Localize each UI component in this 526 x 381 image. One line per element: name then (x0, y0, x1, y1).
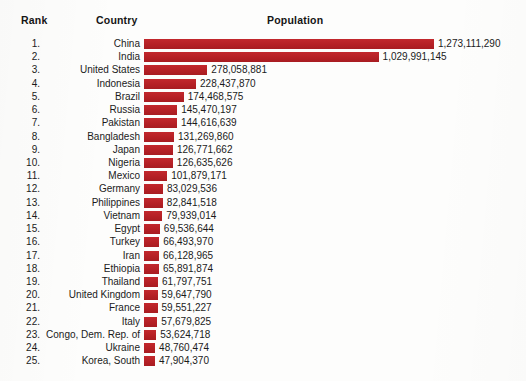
table-row: 21.France59,551,227 (0, 302, 526, 314)
row-rank: 9. (0, 144, 40, 156)
row-rank: 8. (0, 131, 40, 143)
row-rank: 19. (0, 276, 40, 288)
row-bar (144, 118, 177, 128)
row-value-label: 59,551,227 (162, 302, 212, 314)
row-country-label: Congo, Dem. Rep. of (42, 329, 140, 341)
row-country-label: Mexico (42, 170, 140, 182)
table-row: 1.China1,273,111,290 (0, 38, 526, 50)
row-country-label: Philippines (42, 197, 140, 209)
row-bar (144, 132, 174, 142)
table-row: 5.Brazil174,468,575 (0, 91, 526, 103)
row-bar (144, 198, 163, 208)
row-value-label: 66,128,965 (163, 250, 213, 262)
row-country-label: Nigeria (42, 157, 140, 169)
row-bar (144, 251, 159, 261)
row-value-label: 79,939,014 (166, 210, 216, 222)
row-value-label: 47,904,370 (159, 355, 209, 367)
row-rank: 17. (0, 250, 40, 262)
row-bar (144, 184, 163, 194)
row-value-label: 69,536,644 (164, 223, 214, 235)
row-value-label: 1,029,991,145 (383, 51, 447, 63)
table-row: 3.United States278,058,881 (0, 64, 526, 76)
row-country-label: Thailand (42, 276, 140, 288)
row-rank: 11. (0, 170, 40, 182)
row-bar (144, 303, 158, 313)
row-rank: 1. (0, 38, 40, 50)
row-country-label: Bangladesh (42, 131, 140, 143)
population-bar-chart: Rank Country Population 1.China1,273,111… (0, 0, 526, 381)
table-row: 18.Ethiopia65,891,874 (0, 263, 526, 275)
row-rank: 5. (0, 91, 40, 103)
row-bar (144, 290, 158, 300)
row-value-label: 83,029,536 (167, 183, 217, 195)
row-country-label: Vietnam (42, 210, 140, 222)
row-bar (144, 277, 158, 287)
row-bar (144, 79, 196, 89)
row-value-label: 65,891,874 (163, 263, 213, 275)
row-rank: 18. (0, 263, 40, 275)
table-row: 11.Mexico101,879,171 (0, 170, 526, 182)
row-rank: 6. (0, 104, 40, 116)
row-rank: 2. (0, 51, 40, 63)
row-country-label: Turkey (42, 236, 140, 248)
row-bar (144, 52, 379, 62)
row-value-label: 131,269,860 (178, 131, 234, 143)
row-value-label: 66,493,970 (163, 236, 213, 248)
row-country-label: Brazil (42, 91, 140, 103)
row-value-label: 61,797,751 (162, 276, 212, 288)
table-row: 12.Germany83,029,536 (0, 183, 526, 195)
row-rank: 12. (0, 183, 40, 195)
table-row: 10.Nigeria126,635,626 (0, 157, 526, 169)
row-country-label: India (42, 51, 140, 63)
row-value-label: 59,647,790 (162, 289, 212, 301)
row-value-label: 228,437,870 (200, 78, 256, 90)
row-value-label: 53,624,718 (160, 329, 210, 341)
table-row: 7.Pakistan144,616,639 (0, 117, 526, 129)
row-rank: 21. (0, 302, 40, 314)
row-country-label: Pakistan (42, 117, 140, 129)
row-bar (144, 92, 184, 102)
table-row: 16.Turkey66,493,970 (0, 236, 526, 248)
table-row: 8.Bangladesh131,269,860 (0, 131, 526, 143)
row-rank: 25. (0, 355, 40, 367)
row-rank: 4. (0, 78, 40, 90)
row-bar (144, 105, 177, 115)
table-row: 6.Russia145,470,197 (0, 104, 526, 116)
row-value-label: 126,635,626 (177, 157, 233, 169)
row-value-label: 144,616,639 (181, 117, 237, 129)
row-rank: 13. (0, 197, 40, 209)
row-country-label: Japan (42, 144, 140, 156)
row-bar (144, 317, 157, 327)
row-country-label: Germany (42, 183, 140, 195)
row-bar (144, 330, 156, 340)
row-rank: 22. (0, 316, 40, 328)
row-value-label: 278,058,881 (211, 64, 267, 76)
row-value-label: 145,470,197 (181, 104, 237, 116)
row-rank: 24. (0, 342, 40, 354)
table-row: 9.Japan126,771,662 (0, 144, 526, 156)
table-row: 13.Philippines82,841,518 (0, 197, 526, 209)
row-country-label: Indonesia (42, 78, 140, 90)
row-bar (144, 211, 162, 221)
chart-rows: 1.China1,273,111,2902.India1,029,991,145… (0, 0, 526, 381)
row-country-label: Ethiopia (42, 263, 140, 275)
row-value-label: 1,273,111,290 (438, 38, 500, 50)
row-bar (144, 145, 173, 155)
row-country-label: Egypt (42, 223, 140, 235)
table-row: 22.Italy57,679,825 (0, 316, 526, 328)
row-bar (144, 356, 155, 366)
row-value-label: 57,679,825 (161, 316, 211, 328)
row-bar (144, 39, 434, 49)
row-country-label: Korea, South (42, 355, 140, 367)
row-value-label: 82,841,518 (167, 197, 217, 209)
row-rank: 20. (0, 289, 40, 301)
row-value-label: 101,879,171 (171, 170, 227, 182)
row-value-label: 48,760,474 (159, 342, 209, 354)
row-bar (144, 343, 155, 353)
row-country-label: United Kingdom (42, 289, 140, 301)
row-bar (144, 171, 167, 181)
row-bar (144, 158, 173, 168)
row-country-label: Russia (42, 104, 140, 116)
table-row: 14.Vietnam79,939,014 (0, 210, 526, 222)
row-country-label: United States (42, 64, 140, 76)
